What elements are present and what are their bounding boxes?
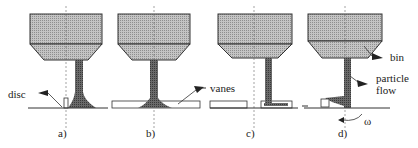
particle-flow [264,58,288,106]
diagram-canvas: disc a) b) vanes c) [0,0,418,148]
label-particle: particle [376,72,409,84]
caption-d: d) [338,127,348,140]
disc-pointer [48,93,62,107]
vane [321,99,329,107]
panel-b: b) [112,6,204,140]
panel-c: c) [210,6,298,140]
label-flow: flow [376,84,396,96]
panel-a: disc a) [8,6,108,140]
label-vanes: vanes [210,82,235,94]
label-bin: bin [390,51,405,63]
bin [218,14,292,58]
bin [118,14,190,60]
arrow-icon [357,80,368,87]
panel-d: bin particle flow ω d) [304,6,409,140]
caption-b: b) [146,127,156,140]
particle-flow [68,60,96,108]
label-disc: disc [8,88,26,100]
vane-left [210,101,247,108]
arrow-icon [38,90,48,96]
arrow-icon [194,86,204,93]
flow-pointer [350,76,358,82]
caption-c: c) [246,127,255,140]
label-omega: ω [364,115,371,127]
caption-a: a) [58,127,67,140]
disc-rim [64,98,68,108]
arrow-icon [372,53,383,60]
arrow-icon [338,117,344,123]
bin [30,14,102,60]
